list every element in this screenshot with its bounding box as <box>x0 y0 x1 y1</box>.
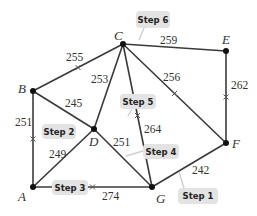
node-label: G <box>156 191 166 206</box>
node-A <box>30 184 36 190</box>
edge-weight-label: 253 <box>91 73 109 85</box>
node-label: E <box>221 32 230 47</box>
edge-weight-label: 251 <box>113 136 131 148</box>
callout-pointer <box>126 151 143 156</box>
edge-weight-label: 255 <box>66 51 84 63</box>
node-B <box>30 88 36 94</box>
step-callout-label: Step 2 <box>44 127 75 137</box>
callout-pointer <box>179 172 184 188</box>
edge-weight-label: 242 <box>192 164 210 176</box>
node-F <box>223 140 229 146</box>
edge-weight-label: 249 <box>49 148 67 160</box>
graph-diagram: Step 1Step 2Step 3Step 4Step 5Step 6 255… <box>0 0 257 216</box>
step-callout-label: Step 1 <box>183 191 214 201</box>
step-callout-label: Step 3 <box>55 183 86 193</box>
edge-weight-label: 259 <box>160 34 178 46</box>
callout-pointer <box>139 28 144 40</box>
edge-BD <box>33 91 94 129</box>
step-callout-label: Step 6 <box>138 15 169 25</box>
labels: 255259253264256262245251249251274242ABCD… <box>15 28 249 206</box>
edge-weight-label: 264 <box>144 123 162 135</box>
node-D <box>91 126 97 132</box>
edge-weight-label: 251 <box>15 116 33 128</box>
node-label: B <box>18 81 26 96</box>
node-label: F <box>231 136 241 151</box>
edge-weight-label: 245 <box>65 97 83 109</box>
node-label: D <box>88 134 99 149</box>
edge-weight-label: 274 <box>102 190 120 202</box>
step-callout-label: Step 4 <box>146 147 177 157</box>
node-G <box>149 184 155 190</box>
edge-weight-label: 256 <box>163 71 181 83</box>
node-label: A <box>17 189 26 204</box>
callout-pointer <box>128 109 132 116</box>
step-callout-label: Step 5 <box>123 97 154 107</box>
edge-weight-label: 262 <box>231 79 249 91</box>
node-label: C <box>114 28 123 43</box>
node-E <box>223 48 229 54</box>
